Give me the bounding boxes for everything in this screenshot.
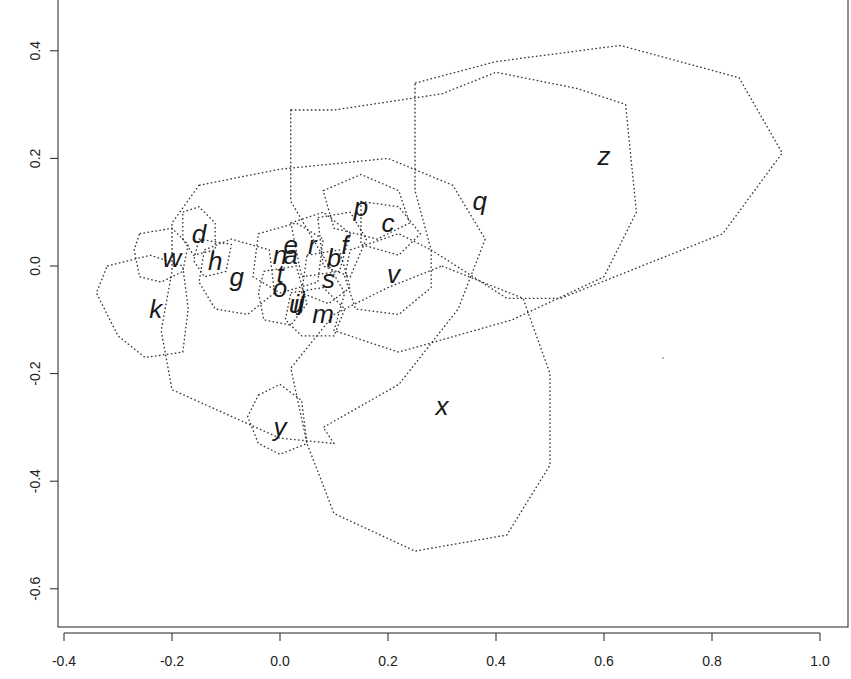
hull-q: [291, 72, 637, 352]
y-tick-label: -0.4: [27, 469, 43, 493]
point-label-q: q: [473, 186, 488, 216]
x-tick-label: -0.4: [52, 653, 76, 669]
point-label-r: r: [308, 230, 318, 260]
x-tick-label: 0.4: [486, 653, 506, 669]
y-axis: 0.40.20.0-0.2-0.4-0.6: [27, 41, 58, 601]
x-tick-label: -0.2: [160, 653, 184, 669]
hull-z: [415, 45, 782, 298]
point-label-u: u: [289, 289, 303, 319]
point-label-p: p: [353, 192, 368, 222]
point-label-k: k: [149, 294, 164, 324]
point-label-g: g: [230, 262, 245, 292]
x-axis: -0.4-0.20.00.20.40.60.81.0: [52, 633, 830, 669]
y-tick-label: 0.0: [27, 256, 43, 276]
point-label-s: s: [322, 264, 335, 294]
x-tick-label: 0.0: [270, 653, 290, 669]
point-label-y: y: [272, 412, 289, 442]
scatter-chart: abcdefghijklmnopqrstuvwxyz -0.4-0.20.00.…: [0, 0, 851, 679]
plot-frame: [58, 0, 848, 627]
point-label-v: v: [387, 259, 402, 289]
x-tick-label: 0.8: [702, 653, 722, 669]
y-tick-label: 0.2: [27, 148, 43, 168]
point-label-m: m: [312, 299, 334, 329]
point-label-c: c: [382, 208, 395, 238]
point-label-h: h: [208, 246, 222, 276]
x-tick-label: 0.6: [594, 653, 614, 669]
x-tick-label: 1.0: [810, 653, 830, 669]
point-labels: abcdefghijklmnopqrstuvwxyz: [149, 141, 610, 443]
point-label-x: x: [434, 391, 450, 421]
y-tick-label: 0.4: [27, 41, 43, 61]
point-label-w: w: [163, 243, 184, 273]
y-tick-label: -0.6: [27, 577, 43, 601]
point-label-z: z: [597, 141, 611, 171]
hull-polygons: [96, 45, 782, 551]
x-tick-label: 0.2: [378, 653, 398, 669]
y-tick-label: -0.2: [27, 361, 43, 385]
stray-dot: [662, 357, 664, 359]
point-label-d: d: [192, 219, 208, 249]
